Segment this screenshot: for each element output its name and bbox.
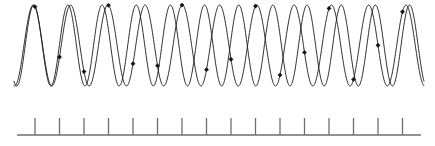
sampling-axis-group [17,118,421,135]
sample-marker [400,10,404,14]
figure-root: Two sinusoids of nearly equal frequency … [0,0,435,146]
sample-marker [229,57,233,61]
sample-marker [82,69,86,73]
sample-marker [278,73,282,77]
wave-group [14,5,424,86]
sample-marker [302,50,306,54]
waveform-plot [0,0,435,146]
axis-ticks-group [35,118,403,135]
sample-marker [327,6,331,10]
sample-marker [204,68,208,72]
sample-marker [131,62,135,66]
sample-marker [376,43,380,47]
sample-markers-group [33,3,405,82]
